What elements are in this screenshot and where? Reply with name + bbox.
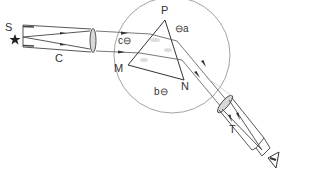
label-apex: P [161, 5, 168, 16]
label-screw-b: b⊖ [154, 87, 168, 97]
telescope [215, 93, 270, 156]
label-telescope: T [229, 124, 236, 135]
eye-icon [268, 152, 279, 168]
label-vertex-right: N [181, 81, 189, 92]
label-collimator: C [55, 53, 63, 64]
label-screw-a: ⊖a [175, 24, 189, 34]
star-icon [10, 34, 21, 45]
label-vertex-left: M [114, 63, 123, 74]
label-screw-c: c⊖ [118, 36, 131, 46]
collimator [23, 25, 96, 53]
prism-table [114, 0, 230, 113]
label-source: S [5, 22, 12, 33]
